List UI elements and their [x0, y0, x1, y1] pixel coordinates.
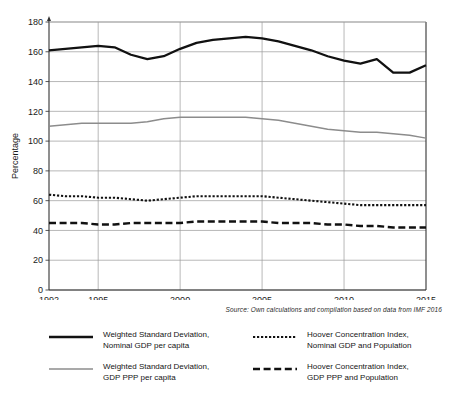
svg-text:140: 140 [28, 77, 43, 87]
chart-legend: Weighted Standard Deviation, Nominal GDP… [48, 330, 446, 383]
y-axis-ticks: 020406080100120140160180 [28, 17, 49, 295]
legend-item-label: Weighted Standard Deviation, GDP PPP per… [103, 362, 209, 383]
y-axis-title: Percentage [10, 133, 20, 179]
legend-item: Weighted Standard Deviation, Nominal GDP… [48, 330, 242, 351]
legend-item: Weighted Standard Deviation, GDP PPP per… [48, 362, 242, 383]
legend-swatch-dashed [252, 362, 298, 376]
chart-plot-area: 020406080100120140160180 199219952000200… [0, 0, 451, 300]
legend-item-label: Hoover Concentration Index, GDP PPP and … [307, 362, 409, 383]
svg-text:80: 80 [33, 166, 43, 176]
svg-text:180: 180 [28, 17, 43, 27]
legend-item: Hoover Concentration Index, GDP PPP and … [252, 362, 446, 383]
svg-text:2010: 2010 [334, 295, 354, 301]
legend-swatch-solid-thin-gray [48, 362, 94, 376]
plot-frame [47, 16, 426, 290]
svg-text:2015: 2015 [416, 295, 436, 301]
svg-text:160: 160 [28, 47, 43, 57]
legend-item: Hoover Concentration Index, Nominal GDP … [252, 330, 446, 351]
svg-text:1995: 1995 [88, 295, 108, 301]
series-lines [49, 37, 426, 228]
svg-text:20: 20 [33, 255, 43, 265]
svg-text:120: 120 [28, 107, 43, 117]
svg-text:1992: 1992 [39, 295, 59, 301]
x-axis-ticks: 199219952000200520102015 [39, 295, 436, 301]
svg-text:60: 60 [33, 196, 43, 206]
legend-swatch-dotted [252, 330, 298, 344]
legend-item-label: Hoover Concentration Index, Nominal GDP … [307, 330, 411, 351]
source-note: Source: Own calculations and compilation… [0, 306, 442, 313]
legend-swatch-solid-thick [48, 330, 94, 344]
legend-item-label: Weighted Standard Deviation, Nominal GDP… [103, 330, 209, 351]
svg-text:2005: 2005 [252, 295, 272, 301]
figure: 020406080100120140160180 199219952000200… [0, 0, 451, 404]
svg-text:2000: 2000 [170, 295, 190, 301]
svg-text:100: 100 [28, 136, 43, 146]
svg-text:40: 40 [33, 226, 43, 236]
line-chart: 020406080100120140160180 199219952000200… [0, 0, 451, 300]
